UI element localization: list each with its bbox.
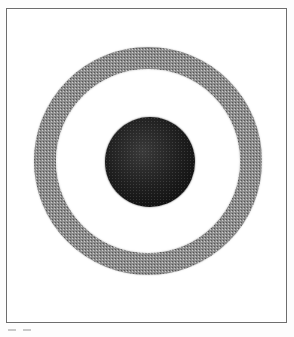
inner-sphere-texture bbox=[105, 117, 195, 207]
figure-page bbox=[0, 0, 294, 337]
figure-stage bbox=[7, 9, 286, 322]
scan-edge-marks bbox=[0, 325, 294, 337]
inner-sphere-shape bbox=[105, 117, 195, 207]
figure-border bbox=[6, 8, 287, 323]
figure-caption bbox=[0, 0, 1, 1]
scan-edge-mark bbox=[8, 329, 16, 331]
scan-edge-mark bbox=[23, 329, 31, 331]
